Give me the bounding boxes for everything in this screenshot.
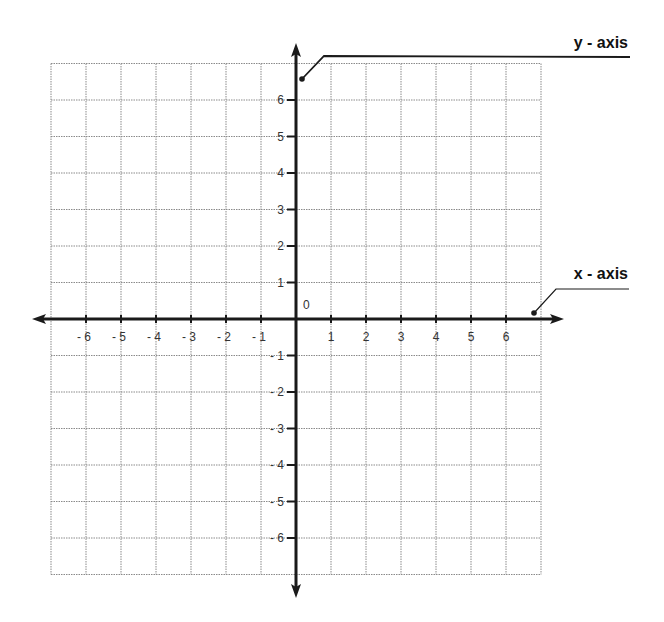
x-tick-label: 1	[328, 330, 335, 344]
x-axis-callout: x - axis	[531, 265, 629, 316]
y-tick-label: 3	[277, 203, 284, 217]
coordinate-plane: - 6- 5- 4- 3- 2- 1123456654321- 1- 2- 3-…	[0, 0, 664, 622]
x-tick-label: - 2	[217, 330, 231, 344]
y-axis-leader-line	[302, 56, 630, 79]
x-tick-label: - 3	[182, 330, 196, 344]
x-tick-label: 6	[503, 330, 510, 344]
x-tick-label: 2	[363, 330, 370, 344]
x-tick-label: 4	[433, 330, 440, 344]
x-tick-label: - 5	[112, 330, 126, 344]
x-tick-label: - 6	[77, 330, 91, 344]
y-axis-title: y - axis	[574, 34, 628, 51]
y-tick-label: - 4	[270, 458, 284, 472]
x-tick-label: 5	[468, 330, 475, 344]
y-axis-callout: y - axis	[299, 34, 630, 82]
y-tick-label: - 5	[270, 495, 284, 509]
x-tick-label: 3	[398, 330, 405, 344]
origin-label: 0	[303, 298, 310, 312]
axes	[32, 43, 564, 598]
y-tick-label: - 1	[270, 349, 284, 363]
x-axis-title: x - axis	[574, 265, 628, 282]
y-tick-label: 6	[277, 93, 284, 107]
x-tick-label: - 4	[147, 330, 161, 344]
y-tick-label: - 3	[270, 422, 284, 436]
x-tick-label: - 1	[252, 330, 266, 344]
y-tick-label: 5	[277, 130, 284, 144]
y-tick-label: 4	[277, 166, 284, 180]
x-axis-leader-line	[534, 289, 629, 313]
y-tick-label: 1	[277, 276, 284, 290]
y-tick-label: - 6	[270, 531, 284, 545]
y-tick-label: - 2	[270, 385, 284, 399]
y-tick-label: 2	[277, 239, 284, 253]
